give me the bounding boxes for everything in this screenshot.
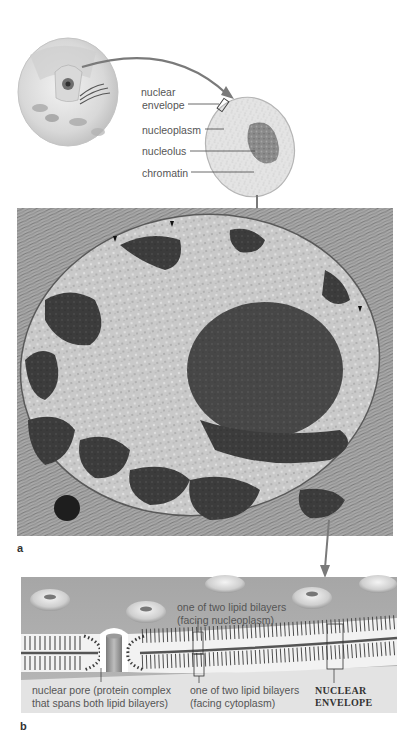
label-nucleoplasm: nucleoplasm <box>142 124 201 136</box>
nucleus-closeup-illustration <box>195 87 306 206</box>
label-bilayer-cytoplasm-line2: (facing cytoplasm) <box>190 697 275 710</box>
label-nucleolus: nucleolus <box>142 145 186 157</box>
label-bilayer-nucleoplasm-line1: one of two lipid bilayers <box>177 601 286 614</box>
label-nuclear-envelope-b-line1: NUCLEAR <box>315 685 367 697</box>
animal-cell-illustration <box>18 38 118 146</box>
electron-micrograph <box>1 191 399 538</box>
label-chromatin: chromatin <box>142 167 188 179</box>
label-nuclear-pore-line2: that spans both lipid bilayers) <box>32 697 168 710</box>
panel-b-letter: b <box>20 720 27 732</box>
figure-canvas <box>0 0 417 745</box>
label-nuclear-envelope-line1: nuclear <box>141 86 175 98</box>
label-bilayer-nucleoplasm-line2: (facing nucleoplasm) <box>177 614 274 627</box>
label-bilayer-cytoplasm-line1: one of two lipid bilayers <box>190 684 299 697</box>
label-nuclear-envelope-line2: envelope <box>142 99 185 111</box>
panel-a-letter: a <box>17 542 23 554</box>
label-nuclear-pore-line1: nuclear pore (protein complex <box>32 684 171 697</box>
label-nuclear-envelope-b-line2: ENVELOPE <box>315 697 372 709</box>
